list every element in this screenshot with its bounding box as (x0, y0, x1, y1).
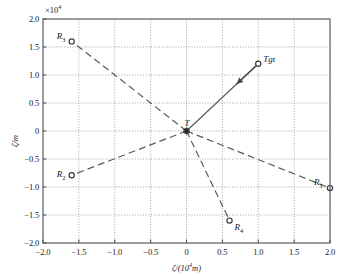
marker-r2[interactable] (69, 173, 74, 178)
x-tick-label: 1.5 (279, 247, 309, 257)
y-tick-label: −1.0 (24, 182, 39, 192)
y-tick-label: 1.5 (29, 42, 39, 52)
x-tick-label: −0.5 (136, 247, 166, 257)
x-tick-label: −1.5 (64, 247, 94, 257)
y-tick-label: 1.0 (29, 70, 39, 80)
label-r4: R4 (235, 222, 244, 234)
scatter-chart-figure: ×104 2.01.51.00.50−0.5−1.0−1.5−2.0 −2.0−… (0, 0, 347, 276)
plot-canvas (0, 0, 347, 276)
x-tick-label: 1.0 (243, 247, 273, 257)
marker-tgt[interactable] (256, 61, 261, 66)
label-r2: R2 (57, 169, 66, 181)
x-tick-label: 2.0 (315, 247, 345, 257)
y-tick-label: 0.5 (29, 98, 39, 108)
y-axis-multiplier: ×104 (45, 4, 61, 15)
marker-r3[interactable] (69, 39, 74, 44)
marker-r4[interactable] (227, 218, 232, 223)
y-tick-label: −0.5 (24, 154, 39, 164)
y-tick-label: 2.0 (29, 14, 39, 24)
label-r1: R1 (314, 177, 323, 189)
x-axis-title: ζ/(104m) (157, 262, 217, 273)
x-tick-label: 0.5 (207, 247, 237, 257)
label-r3: R3 (57, 31, 66, 43)
x-tick-label: 0 (172, 247, 202, 257)
x-tick-label: −2.0 (28, 247, 58, 257)
y-tick-label: −1.5 (24, 210, 39, 220)
label-origin-t: T (185, 118, 190, 128)
x-tick-label: −1.0 (100, 247, 130, 257)
y-tick-label: 0 (35, 126, 39, 136)
label-tgt: Tgt (263, 54, 275, 64)
y-axis-title: ζ/m (10, 135, 20, 147)
y-tick-label: −2.0 (24, 238, 39, 248)
